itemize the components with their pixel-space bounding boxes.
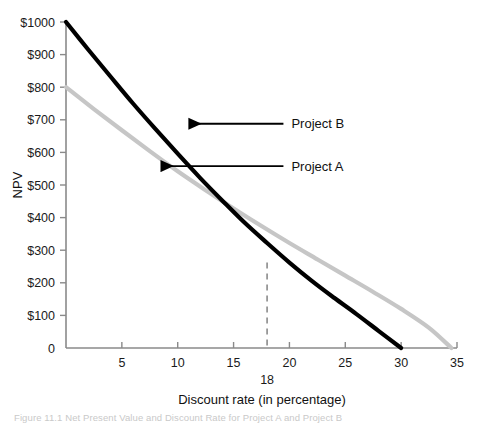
x-tick-label: 20 — [282, 356, 296, 370]
project-a-callout-label: Project A — [291, 159, 343, 174]
figure-caption: Figure 11.1 Net Present Value and Discou… — [14, 412, 342, 423]
y-tick-label: $100 — [27, 309, 55, 323]
npv-discount-rate-figure: 0$100$200$300$400$500$600$700$800$900$10… — [0, 0, 481, 423]
y-axis-title: NPV — [10, 171, 25, 198]
y-tick-label: $300 — [27, 244, 55, 258]
y-tick-label: $500 — [27, 179, 55, 193]
y-tick-label: $900 — [27, 48, 55, 62]
project-b-callout-label: Project B — [291, 116, 344, 131]
series-line-project-b — [66, 22, 401, 348]
x-tick-label: 30 — [394, 356, 408, 370]
x-tick-label: 15 — [227, 356, 241, 370]
x-tick-label: 5 — [118, 356, 125, 370]
crossover-marker: 18 — [260, 263, 274, 387]
x-tick-label: 10 — [171, 356, 185, 370]
x-tick-label: 35 — [450, 356, 464, 370]
y-tick-label: $600 — [27, 146, 55, 160]
npv-chart-canvas: 0$100$200$300$400$500$600$700$800$900$10… — [0, 0, 481, 423]
x-axis-title: Discount rate (in percentage) — [178, 392, 346, 407]
y-tick-label: $800 — [27, 81, 55, 95]
chart-axes — [66, 20, 457, 348]
y-tick-label: $700 — [27, 113, 55, 127]
chart-series — [66, 22, 451, 348]
x-axis-ticks: 5101520253035 — [118, 342, 464, 370]
y-tick-label: $400 — [27, 211, 55, 225]
y-axis-ticks: 0$100$200$300$400$500$600$700$800$900$10… — [20, 16, 66, 356]
y-tick-label: $200 — [27, 276, 55, 290]
y-tick-label: 0 — [48, 342, 55, 356]
crossover-value-label: 18 — [260, 373, 274, 387]
series-line-project-a — [66, 87, 451, 348]
x-tick-label: 25 — [338, 356, 352, 370]
y-tick-label: $1000 — [20, 16, 55, 30]
